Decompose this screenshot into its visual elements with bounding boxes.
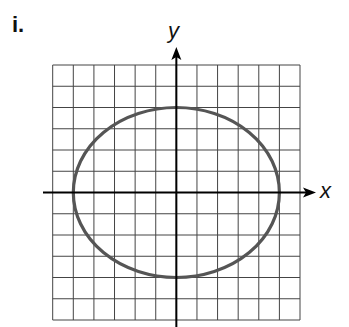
coordinate-plane [0, 0, 349, 327]
axes [43, 47, 316, 327]
